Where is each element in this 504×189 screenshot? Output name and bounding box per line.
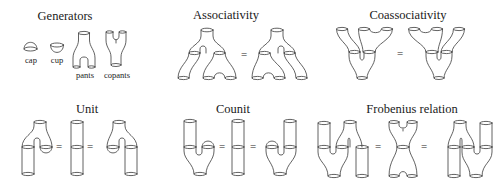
associativity-right-shape: [252, 28, 307, 79]
equals-sign: =: [56, 140, 62, 152]
panel-title: Associativity: [193, 8, 260, 22]
unit-right-shape: [107, 120, 137, 175]
pants-label: pants: [76, 70, 94, 80]
panel-frobenius: Frobenius relation =: [318, 102, 492, 178]
equals-sign: =: [241, 48, 247, 60]
panel-title: Generators: [38, 9, 93, 23]
panel-generators: Generators cap cup pants: [24, 9, 130, 80]
copants-shape: [106, 31, 126, 67]
panel-counit: Counit = =: [184, 102, 296, 176]
frobenius-left-shape: [318, 120, 368, 177]
equals-sign: =: [397, 47, 403, 59]
associativity-left-shape: [178, 28, 236, 79]
cap-label: cap: [25, 55, 37, 65]
cobordism-relations-figure: Generators cap cup pants: [0, 0, 504, 189]
unit-identity-shape: [71, 120, 83, 175]
pants-shape: [73, 31, 95, 68]
panel-title: Counit: [216, 102, 251, 116]
frobenius-middle-shape: [389, 121, 417, 178]
panel-associativity: Associativity =: [178, 8, 307, 80]
coassociativity-right-shape: [409, 27, 465, 79]
cup-label: cup: [51, 55, 63, 65]
equals-sign: =: [250, 140, 256, 152]
cap-shape: [24, 42, 37, 51]
coassociativity-left-shape: [337, 27, 393, 79]
counit-right-shape: [266, 119, 296, 175]
cup-shape: [51, 43, 64, 53]
equals-sign: =: [219, 140, 225, 152]
panel-title: Frobenius relation: [366, 102, 458, 116]
panel-coassociativity: Coassociativity =: [337, 8, 465, 80]
equals-sign: =: [87, 140, 93, 152]
panel-unit: Unit = =: [22, 102, 137, 176]
copants-label: copants: [104, 70, 130, 80]
counit-identity-shape: [232, 119, 244, 175]
panel-title: Unit: [76, 102, 99, 116]
unit-left-shape: [22, 120, 52, 175]
frobenius-right-shape: [448, 120, 492, 177]
equals-sign: =: [375, 140, 381, 152]
panel-title: Coassociativity: [369, 8, 447, 22]
equals-sign: =: [421, 140, 427, 152]
counit-left-shape: [184, 119, 214, 175]
